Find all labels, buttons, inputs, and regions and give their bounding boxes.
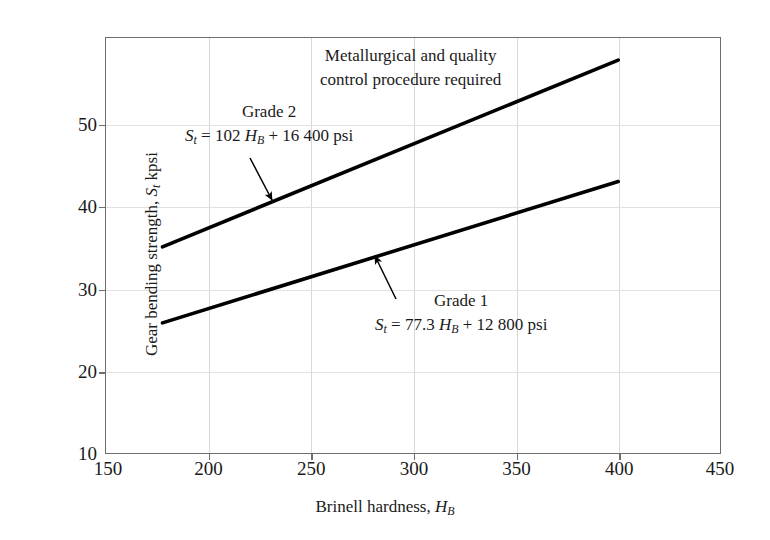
grade1-callout: Grade 1 St = 77.3 HB + 12 800 psi — [375, 289, 547, 338]
grade2-label: Grade 2 — [185, 100, 353, 124]
grade1-eq-mid: = 77.3 — [391, 315, 439, 334]
ytick-label-40: 40 — [78, 196, 97, 218]
gridline-x-350 — [517, 38, 518, 453]
xtick-label-400: 400 — [605, 458, 634, 480]
grade1-label: Grade 1 — [375, 289, 547, 313]
metallurgical-note: Metallurgical and quality control proced… — [320, 44, 501, 92]
ytick-50 — [99, 125, 106, 126]
ytick-30 — [99, 290, 106, 291]
xtick-label-350: 350 — [502, 458, 531, 480]
gridline-y-20 — [106, 372, 720, 373]
gear-bending-strength-chart: 50 40 30 20 10 150 200 250 300 350 400 4… — [0, 0, 770, 540]
xtick-label-450: 450 — [706, 458, 735, 480]
xtick-label-300: 300 — [400, 458, 429, 480]
gridline-x-400 — [619, 38, 620, 453]
xtick-label-250: 250 — [297, 458, 326, 480]
gridline-y-40 — [106, 207, 720, 208]
grade2-callout: Grade 2 St = 102 HB + 16 400 psi — [185, 100, 353, 149]
grade2-eq-lhs: S — [185, 126, 194, 145]
metallurgical-note-line1: Metallurgical and quality — [320, 44, 501, 68]
ytick-label-30: 30 — [78, 279, 97, 301]
y-axis-title: Gear bending strength, St kpsi — [142, 84, 164, 424]
x-axis-title-sub: B — [447, 504, 454, 518]
grade2-eq-lhs-sub: t — [194, 133, 197, 147]
y-axis-title-sub: t — [149, 185, 163, 188]
x-axis-title-main: Brinell hardness, — [316, 497, 435, 516]
ytick-label-20: 20 — [78, 361, 97, 383]
xtick-label-150: 150 — [94, 458, 123, 480]
xtick-label-200: 200 — [194, 458, 223, 480]
ytick-label-50: 50 — [78, 114, 97, 136]
grade1-eq-tail: + 12 800 psi — [458, 315, 547, 334]
grade1-equation: St = 77.3 HB + 12 800 psi — [375, 313, 547, 338]
grade1-eq-lhs: S — [375, 315, 384, 334]
x-axis-title-var: H — [435, 497, 447, 516]
gridline-x-300 — [414, 38, 415, 453]
ytick-40 — [99, 207, 106, 208]
metallurgical-note-line2: control procedure required — [320, 68, 501, 92]
y-axis-title-var: S — [142, 188, 161, 197]
grade1-eq-lhs-sub: t — [384, 322, 387, 336]
x-axis-title: Brinell hardness, HB — [0, 497, 770, 519]
grade2-eq-tail: + 16 400 psi — [264, 126, 353, 145]
grade2-equation: St = 102 HB + 16 400 psi — [185, 124, 353, 149]
grade1-eq-var: H — [439, 315, 451, 334]
y-axis-title-main: Gear bending strength, — [142, 196, 161, 356]
grade2-eq-mid: = 102 — [201, 126, 245, 145]
grade2-eq-var: H — [245, 126, 257, 145]
y-axis-title-tail: kpsi — [142, 152, 161, 185]
ytick-20 — [99, 372, 106, 373]
